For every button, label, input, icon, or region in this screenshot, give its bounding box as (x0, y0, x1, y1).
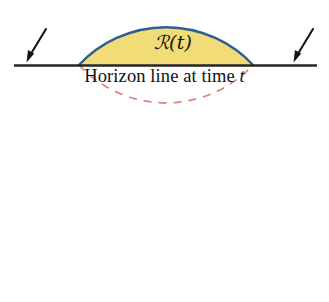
sunrise-region-diagram: ℛ(t) Horizon line at time t (0, 0, 329, 302)
region-label: ℛ(t) (133, 33, 213, 52)
horizon-caption-variable: t (239, 66, 244, 86)
right-incoming-arrow (294, 29, 314, 63)
horizon-caption-text: Horizon line at time (84, 66, 234, 86)
left-incoming-arrow (27, 29, 47, 63)
horizon-caption: Horizon line at time t (0, 66, 329, 87)
